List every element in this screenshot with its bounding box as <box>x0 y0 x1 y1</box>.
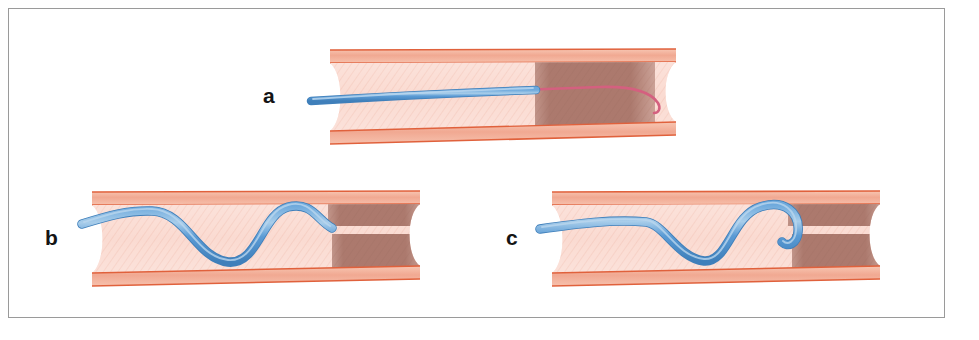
panel-b <box>82 190 424 286</box>
vessel-illustration <box>0 0 979 340</box>
panel-a-vessel-wall-upper <box>330 49 676 63</box>
panel-c <box>540 190 884 286</box>
panel-label-a: a <box>263 85 275 106</box>
panel-c-vessel-wall-upper <box>552 191 880 205</box>
panel-label-b: b <box>45 227 58 248</box>
panel-b-vessel-wall-upper <box>92 191 420 205</box>
panel-a <box>311 45 676 144</box>
panel-label-c: c <box>506 227 518 248</box>
